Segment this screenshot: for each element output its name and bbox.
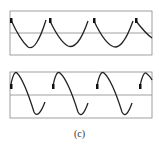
top-panel <box>10 11 152 55</box>
waveform-diagram <box>0 0 159 148</box>
figure-caption: (c) <box>0 128 159 139</box>
bottom-panel <box>10 72 152 118</box>
